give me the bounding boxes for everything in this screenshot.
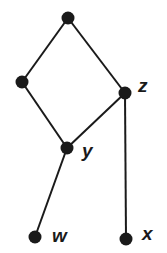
node-w xyxy=(29,231,42,244)
node-top xyxy=(62,12,75,25)
label-z: z xyxy=(137,75,148,96)
hasse-diagram: z y w x xyxy=(0,0,167,253)
label-x: x xyxy=(141,223,154,244)
labels: z y w x xyxy=(52,75,154,246)
nodes xyxy=(16,12,133,246)
edge-z-y xyxy=(67,93,125,148)
edges xyxy=(22,18,126,239)
node-y xyxy=(61,142,74,155)
node-x xyxy=(120,233,133,246)
label-y: y xyxy=(81,140,94,161)
edge-left-y xyxy=(22,82,67,148)
edge-z-x xyxy=(125,93,126,239)
node-left xyxy=(16,76,29,89)
edge-y-w xyxy=(35,148,67,237)
node-z xyxy=(119,87,132,100)
edge-top-left xyxy=(22,18,68,82)
edge-top-z xyxy=(68,18,125,93)
label-w: w xyxy=(52,225,68,246)
